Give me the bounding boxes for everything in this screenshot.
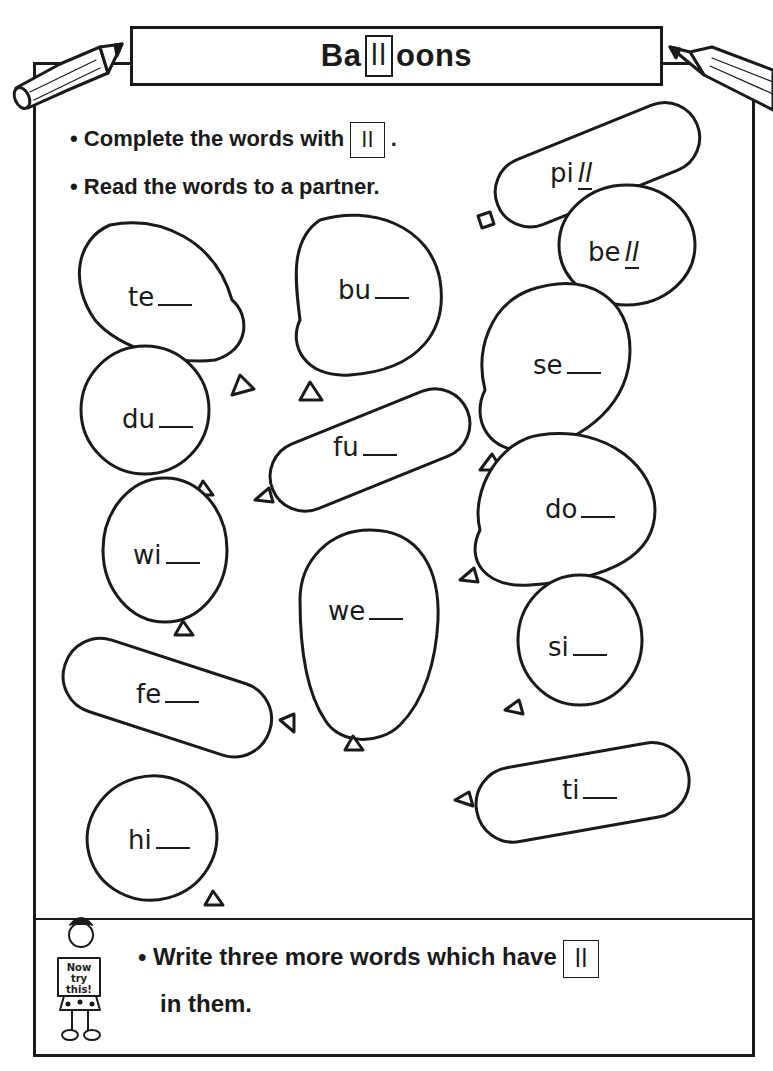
word-stem: fe [136,679,161,709]
answer-blank[interactable] [573,650,607,656]
now-try-this-sign: Now try this! [60,962,98,995]
balloon-word-du[interactable]: du [122,404,193,434]
instruction-text: Read the words to a partner. [84,174,380,199]
extension-text: Write three more words which have [153,943,557,970]
balloon-word-bell[interactable]: bell [588,237,639,269]
instruction-end: . [391,126,397,151]
balloon-word-fe[interactable]: fe [136,679,199,709]
word-answer[interactable]: ll [578,158,592,190]
balloon-word-fu[interactable]: fu [333,432,397,462]
word-stem: hi [128,825,152,855]
sign-line: try [60,973,98,984]
word-stem: fu [333,432,359,462]
title-suffix: oons [396,38,472,74]
word-stem: ti [562,775,579,805]
bullet: • [138,943,146,970]
balloon-word-se[interactable]: se [533,350,601,380]
word-answer[interactable]: ll [625,237,639,269]
answer-blank[interactable] [156,843,190,849]
word-stem: si [548,632,569,662]
word-stem: pi [550,158,574,188]
word-stem: be [588,237,621,267]
balloon-word-hi[interactable]: hi [128,825,190,855]
balloon-word-si[interactable]: si [548,632,607,662]
sign-line: Now [60,962,98,973]
balloon-word-bu[interactable]: bu [338,275,409,305]
instruction-2: • Read the words to a partner. [70,174,380,200]
word-stem: du [122,404,155,434]
answer-blank[interactable] [581,512,615,518]
balloon-word-we[interactable]: we [328,596,403,626]
balloon-word-ti[interactable]: ti [562,775,617,805]
word-stem: we [328,596,365,626]
sign-line: this! [60,984,98,995]
boxed-letters: ll [563,940,598,978]
answer-blank[interactable] [158,300,192,306]
title-prefix: Ba [321,38,362,74]
answer-blank[interactable] [165,697,199,703]
answer-blank[interactable] [369,614,403,620]
balloon-word-te[interactable]: te [128,282,192,312]
pencil-icon-right [670,47,773,110]
answer-blank[interactable] [583,793,617,799]
answer-blank[interactable] [166,558,200,564]
word-stem: wi [133,540,162,570]
answer-blank[interactable] [375,293,409,299]
balloon-word-pill[interactable]: pill [550,158,592,190]
extension-task-line1: • Write three more words which have ll [138,940,599,978]
boxed-letters: ll [350,122,384,158]
bullet: • [70,174,78,199]
word-stem: te [128,282,154,312]
page-title: Ba ll oons [130,26,663,86]
balloon-artwork [0,0,773,1071]
answer-blank[interactable] [363,450,397,456]
pencil-icon-left [11,44,122,111]
balloon-word-do[interactable]: do [545,494,615,524]
word-stem: bu [338,275,371,305]
instruction-1: • Complete the words with ll . [70,122,397,158]
extension-task-line2: in them. [160,990,252,1018]
title-boxed-letters: ll [365,35,394,77]
word-stem: do [545,494,577,524]
answer-blank[interactable] [567,368,601,374]
instruction-text: Complete the words with [84,126,344,151]
answer-blank[interactable] [159,422,193,428]
balloon-word-wi[interactable]: wi [133,540,200,570]
bullet: • [70,126,78,151]
word-stem: se [533,350,563,380]
